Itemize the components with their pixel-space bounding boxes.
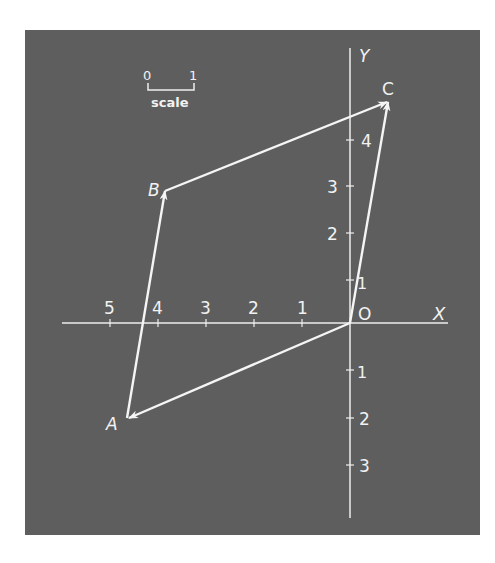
point-label-C: C xyxy=(382,79,394,99)
scale-label: scale xyxy=(151,95,189,110)
x-tick-label: 2 xyxy=(248,298,259,318)
y-tick-label: 2 xyxy=(327,224,338,244)
scale-left-label: 0 xyxy=(143,68,151,83)
y-tick-label: 3 xyxy=(359,456,370,476)
origin-label: O xyxy=(358,304,371,324)
x-tick-label: 5 xyxy=(104,298,115,318)
vector-BC xyxy=(165,102,387,191)
x-tick-label: 3 xyxy=(200,298,211,318)
point-label-B: B xyxy=(148,180,160,200)
y-tick-label: 1 xyxy=(357,363,367,382)
x-tick-label: 4 xyxy=(152,298,163,318)
point-label-A: A xyxy=(105,414,118,434)
y-axis-label: Y xyxy=(359,46,371,66)
x-tick-label: 1 xyxy=(297,298,308,318)
y-tick-label: 3 xyxy=(327,177,338,197)
vector-diagram: 5 4 3 2 1 1 2 3 4 1 2 3 X Y O 0 1 scale … xyxy=(0,0,495,563)
vector-OA xyxy=(129,323,350,418)
y-tick-label: 2 xyxy=(359,409,370,429)
x-axis-label: X xyxy=(432,303,446,324)
scale-right-label: 1 xyxy=(189,68,197,83)
y-tick-label: 4 xyxy=(361,131,372,151)
scale-bar: 0 1 scale xyxy=(143,68,197,110)
